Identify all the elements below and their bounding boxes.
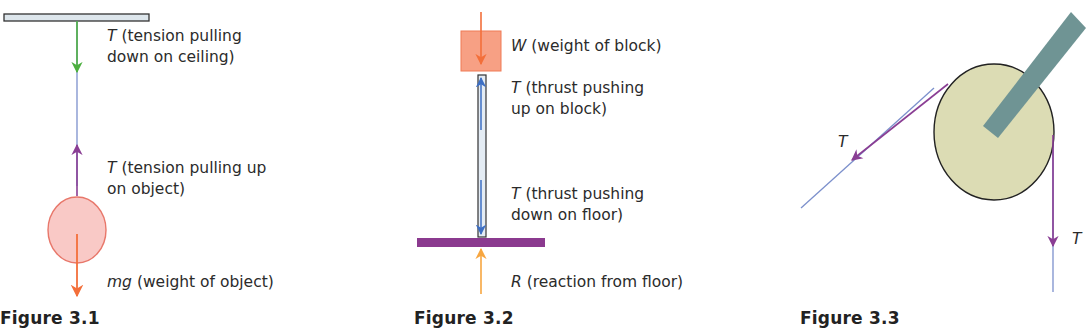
figure-caption: Figure 3.3 bbox=[800, 308, 900, 328]
label-tension-right: T bbox=[1072, 229, 1081, 250]
label-tension-left: T bbox=[838, 132, 847, 153]
label-text: on object) bbox=[107, 180, 185, 198]
label-text: down on floor) bbox=[511, 206, 623, 224]
floor bbox=[417, 238, 545, 247]
label-text: (tension pulling bbox=[116, 27, 241, 45]
figure-caption: Figure 3.2 bbox=[414, 308, 514, 328]
figure-caption: Figure 3.1 bbox=[0, 308, 100, 328]
label-weight-block: W (weight of block) bbox=[511, 36, 662, 57]
label-tension-ceiling: T (tension pullingdown on ceiling) bbox=[107, 26, 242, 68]
symbol: W bbox=[511, 37, 526, 55]
label-text: down on ceiling) bbox=[107, 48, 235, 66]
symbol: mg bbox=[107, 273, 132, 291]
label-text: (reaction from floor) bbox=[522, 273, 683, 291]
label-text: (thrust pushing bbox=[520, 79, 644, 97]
strut bbox=[478, 75, 486, 237]
symbol: T bbox=[1072, 230, 1081, 248]
label-reaction: R (reaction from floor) bbox=[511, 272, 683, 293]
ceiling bbox=[4, 14, 149, 21]
label-weight-object: mg (weight of object) bbox=[107, 272, 274, 293]
label-text: (weight of object) bbox=[132, 273, 274, 291]
symbol: R bbox=[511, 273, 522, 291]
label-thrust-down: T (thrust pushingdown on floor) bbox=[511, 184, 644, 226]
label-text: (tension pulling up bbox=[116, 159, 266, 177]
label-text: up on block) bbox=[511, 100, 607, 118]
symbol: T bbox=[838, 133, 847, 151]
tension-left-arrow bbox=[852, 84, 948, 160]
label-text: (weight of block) bbox=[526, 37, 661, 55]
label-thrust-up: T (thrust pushingup on block) bbox=[511, 78, 644, 120]
label-text: (thrust pushing bbox=[520, 185, 644, 203]
label-tension-object: T (tension pulling upon object) bbox=[107, 158, 266, 200]
